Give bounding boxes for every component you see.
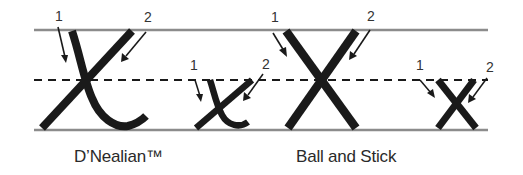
arrow-icon [195,80,203,102]
arrow-icon [420,80,435,98]
ballstick-uppercase-x: 1 2 [271,8,375,128]
stroke-number-2: 2 [262,56,270,72]
dnealian-label: D’Nealian™ [74,147,163,167]
arrow-icon [58,27,68,63]
stroke-number-2: 2 [144,9,152,25]
ballstick-lowercase-x: 1 2 [416,57,494,128]
stroke-number-2: 2 [367,8,375,24]
dnealian-lowercase-x: 1 2 [190,56,270,128]
stroke-number-1: 1 [271,9,279,25]
stroke-number-1: 1 [55,8,63,24]
stroke-number-2: 2 [486,59,494,75]
dnealian-uppercase-x: 1 2 [42,8,152,128]
ball-and-stick-label: Ball and Stick [296,147,396,167]
stroke-number-1: 1 [190,57,198,73]
stroke-number-1: 1 [416,57,424,73]
